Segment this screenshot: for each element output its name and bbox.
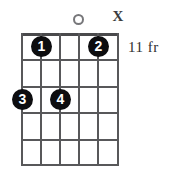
- string-line-1: [117, 33, 119, 166]
- string-line-3: [78, 33, 80, 166]
- fret-line-3: [21, 112, 119, 114]
- finger-dot-4: 4: [50, 89, 71, 110]
- fret-position-label: 11 fr: [128, 39, 159, 56]
- fret-line-1: [21, 59, 119, 61]
- finger-dot-1: 1: [31, 36, 52, 57]
- fret-line-nut: [21, 33, 119, 36]
- muted-string-marker: X: [111, 9, 125, 24]
- fret-line-4: [21, 139, 119, 141]
- open-string-marker: [73, 14, 84, 25]
- chord-diagram: X 1 2 3 4 11 fr: [0, 0, 171, 171]
- finger-dot-2: 2: [88, 36, 109, 57]
- fret-line-5: [21, 164, 119, 166]
- fret-line-2: [21, 86, 119, 88]
- finger-dot-3: 3: [12, 89, 33, 110]
